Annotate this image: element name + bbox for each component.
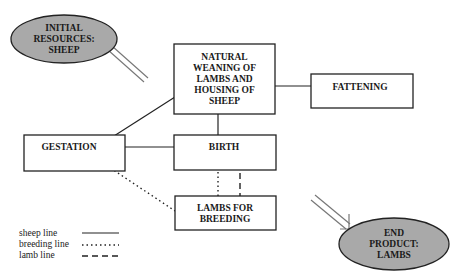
node-birth: BIRTH — [174, 135, 276, 170]
node-lambs-line-1: LAMBS FOR — [197, 203, 253, 213]
node-end-product: END PRODUCT: LAMBS — [339, 218, 449, 270]
legend-label-breeding: breeding line — [19, 239, 69, 249]
node-initial-line-3: SHEEP — [48, 45, 79, 55]
node-gestation: GESTATION — [24, 135, 125, 171]
node-initial-resources: INITIAL RESOURCES: SHEEP — [11, 15, 117, 63]
node-fattening: FATTENING — [311, 74, 413, 108]
legend-label-lamb: lamb line — [19, 250, 55, 260]
node-natural-line-2: WEANING OF — [193, 63, 256, 73]
node-end-line-1: END — [384, 228, 404, 238]
node-birth-label: BIRTH — [209, 142, 240, 152]
node-initial-line-2: RESOURCES: — [33, 34, 94, 44]
sheep-production-diagram: INITIAL RESOURCES: SHEEP NATURAL WEANING… — [0, 0, 463, 280]
node-natural-weaning: NATURAL WEANING OF LAMBS AND HOUSING OF … — [174, 44, 275, 114]
node-end-line-3: LAMBS — [377, 250, 411, 260]
legend: sheep line breeding line lamb line — [19, 228, 119, 260]
node-lambs-for-breeding: LAMBS FOR BREEDING — [175, 196, 276, 230]
node-fattening-label: FATTENING — [332, 82, 388, 92]
node-lambs-line-2: BREEDING — [200, 214, 251, 224]
output-arrow-line-a — [315, 195, 350, 224]
legend-label-sheep: sheep line — [19, 228, 57, 238]
node-natural-line-3: LAMBS AND — [196, 74, 252, 84]
node-gestation-label: GESTATION — [41, 142, 96, 152]
output-arrow-line-b — [311, 200, 346, 229]
node-initial-line-1: INITIAL — [45, 23, 83, 33]
node-natural-line-5: SHEEP — [209, 96, 240, 106]
node-natural-line-4: HOUSING OF — [194, 85, 255, 95]
node-end-line-2: PRODUCT: — [369, 239, 418, 249]
input-arrow-line-a — [112, 46, 148, 78]
input-arrow-line-b — [108, 50, 144, 82]
node-natural-line-1: NATURAL — [201, 52, 247, 62]
